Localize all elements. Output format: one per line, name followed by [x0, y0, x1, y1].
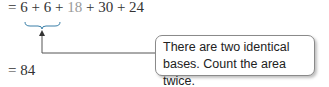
- equation-line-2: = 84: [8, 62, 35, 79]
- callout-line-2: bases. Count the area twice.: [163, 56, 314, 87]
- brace-icon: [25, 22, 60, 29]
- callout-box: There are two identical bases. Count the…: [155, 35, 315, 76]
- arrow-head-icon: [39, 30, 45, 36]
- connector-line: [42, 36, 155, 53]
- callout-line-1: There are two identical: [163, 39, 314, 56]
